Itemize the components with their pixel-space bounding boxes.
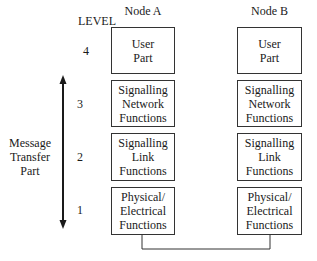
box-text: Functions (119, 218, 166, 232)
node-b-signalling-network-functions: Signalling Network Functions (237, 80, 302, 127)
box-text: Electrical (247, 204, 293, 218)
node-a-user-part: User Part (111, 27, 175, 74)
box-text: Functions (246, 218, 293, 232)
box-text: Network (122, 97, 164, 111)
box-text: Signalling (118, 83, 167, 97)
node-b-user-part: User Part (237, 27, 302, 74)
box-text: Physical/ (248, 190, 292, 204)
box-text: Part (260, 51, 279, 65)
box-text: Functions (246, 164, 293, 178)
box-text: Signalling (118, 136, 167, 150)
box-text: Physical/ (121, 190, 165, 204)
box-text: User (132, 37, 155, 51)
box-text: Link (132, 150, 155, 164)
box-text: Electrical (120, 204, 166, 218)
box-text: User (258, 37, 281, 51)
box-text: Functions (119, 111, 166, 125)
box-text: Link (258, 150, 281, 164)
box-text: Signalling (245, 136, 294, 150)
double-arrow-icon (60, 75, 67, 229)
node-a-signalling-link-functions: Signalling Link Functions (111, 133, 175, 181)
node-a-signalling-network-functions: Signalling Network Functions (111, 80, 175, 127)
box-text: Network (249, 97, 291, 111)
node-a-physical-electrical-functions: Physical/ Electrical Functions (111, 187, 175, 235)
node-b-physical-electrical-functions: Physical/ Electrical Functions (237, 187, 302, 235)
box-text: Functions (246, 111, 293, 125)
box-text: Signalling (245, 83, 294, 97)
box-text: Functions (119, 164, 166, 178)
box-text: Part (133, 51, 152, 65)
node-b-signalling-link-functions: Signalling Link Functions (237, 133, 302, 181)
physical-link-connector (142, 234, 270, 249)
